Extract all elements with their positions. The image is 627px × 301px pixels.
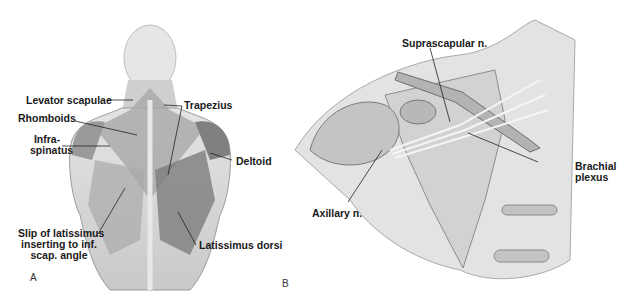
label-brachial-line2: plexus (575, 171, 608, 183)
panel-b-shoulder-nerves: Suprascapular n. Brachial plexus Axillar… (290, 0, 627, 301)
panel-letter-b: B (282, 278, 289, 289)
label-infraspinatus: Infra- spinatus (30, 134, 64, 156)
label-axillary-nerve: Axillary n. (312, 208, 362, 219)
label-latissimus-dorsi: Latissimus dorsi (199, 240, 282, 251)
panel-a-back-muscles: Levator scapulae Rhomboids Infra- spinat… (0, 0, 300, 301)
label-slip-of-latissimus: Slip of latissimus inserting to inf. sca… (18, 228, 100, 261)
label-brachial-plexus: Brachial plexus (575, 161, 616, 183)
label-trapezius: Trapezius (184, 100, 232, 111)
label-rhomboids: Rhomboids (18, 113, 76, 124)
label-slip-line3: scap. angle (30, 249, 87, 261)
label-levator-scapulae: Levator scapulae (26, 95, 112, 106)
label-deltoid: Deltoid (236, 156, 272, 167)
panel-letter-a: A (30, 272, 37, 283)
label-infraspinatus-line2: spinatus (30, 144, 73, 156)
label-suprascapular-nerve: Suprascapular n. (402, 38, 487, 49)
